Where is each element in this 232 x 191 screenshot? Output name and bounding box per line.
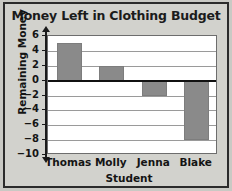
chart-title: Money Left in Clothing Budget [5,8,227,23]
bar [184,81,209,141]
y-axis-tick-label: −6 [13,118,39,129]
y-axis-tick-label: 2 [13,59,39,70]
x-axis-tick-label: Blake [156,156,232,168]
x-axis-title: Student [41,172,217,184]
y-axis-arrow-up-icon [42,26,50,32]
y-axis-tick-label: −2 [13,89,39,100]
y-axis-tick-mark [42,35,46,36]
zero-line [48,80,216,82]
y-axis-tick-mark [42,154,46,155]
bar [57,43,82,80]
y-axis-tick-label: −4 [13,103,39,114]
gridline [48,140,216,141]
y-axis-tick-label: 0 [13,74,39,85]
y-axis-tick-label: −8 [13,133,39,144]
bar [99,66,124,81]
y-axis-tick-mark [42,80,46,81]
y-axis-tick-mark [42,95,46,96]
y-axis-tick-label: 6 [13,29,39,40]
y-axis-tick-mark [42,65,46,66]
bar [142,81,167,96]
y-axis-tick-mark [42,109,46,110]
plot-area [47,35,217,154]
chart-frame: Money Left in Clothing Budget Remaining … [3,2,229,188]
y-axis-tick-mark [42,139,46,140]
y-axis-tick-mark [42,50,46,51]
y-axis-tick-label: 4 [13,44,39,55]
y-axis-tick-mark [42,124,46,125]
